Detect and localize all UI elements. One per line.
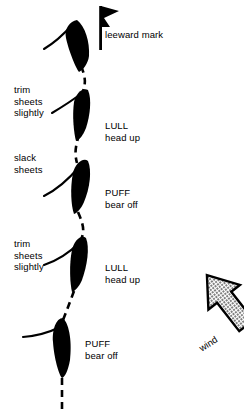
trim-sheets-slightly-upper-label: trimsheetsslightly [14, 84, 44, 119]
boat-1 [44, 20, 89, 72]
puff-bear-off-upper-label: PUFFbear off [105, 187, 138, 210]
label-line: head up [105, 274, 140, 285]
label-line: PUFF [105, 187, 130, 198]
label-line: PUFF [85, 338, 110, 349]
label-line: LULL [105, 120, 128, 131]
label-line: slack [14, 152, 36, 163]
boat-5-hull [53, 318, 71, 378]
label-line: slightly [14, 107, 44, 118]
label-line: sheets [14, 96, 43, 107]
label-line: head up [105, 132, 140, 143]
boat-2 [52, 89, 90, 141]
boat-4 [44, 237, 88, 292]
label-line: bear off [105, 199, 138, 210]
boat-4-hull [70, 237, 88, 292]
trim-sheets-slightly-lower-label: trimsheetsslightly [14, 238, 44, 273]
slack-sheets-label: slacksheets [14, 152, 43, 175]
wind-arrow-icon [191, 263, 244, 338]
label-line: trim [14, 84, 30, 95]
lull-head-up-upper-label: LULLhead up [105, 120, 140, 143]
label-line: trim [14, 238, 30, 249]
flag-pole [99, 6, 102, 50]
sailing-diagram: leeward mark trimsheetsslightly LULLhead… [0, 0, 244, 413]
flag-icon [101, 6, 119, 27]
boat-5 [23, 318, 71, 378]
boat-3-hull [71, 160, 90, 214]
label-line: slightly [14, 261, 44, 272]
boat-3 [44, 160, 90, 214]
leeward-mark-group [99, 6, 119, 50]
lull-head-up-lower-label: LULLhead up [105, 262, 140, 285]
leeward-mark-label: leeward mark [105, 29, 163, 41]
label-line: bear off [85, 350, 118, 361]
puff-bear-off-lower-label: PUFFbear off [85, 338, 118, 361]
label-line: LULL [105, 262, 128, 273]
label-line: sheets [14, 250, 43, 261]
label-line: sheets [14, 164, 43, 175]
